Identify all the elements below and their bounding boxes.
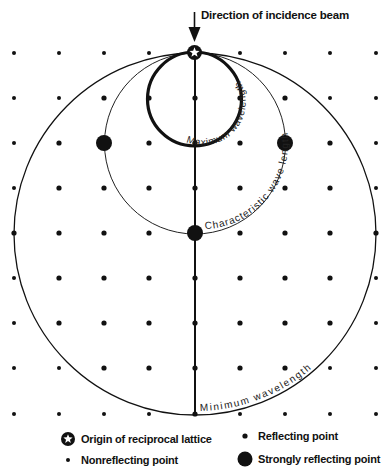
reflecting-point [56,185,61,190]
nonreflecting-point [12,276,16,280]
reflecting-point [282,275,287,280]
nonreflecting-point [374,96,378,100]
reflecting-point [327,320,332,325]
nonreflecting-point [102,51,106,55]
reflecting-point [282,230,287,235]
reflecting-point [101,275,106,280]
reflecting-point [237,365,242,370]
reflecting-point [327,275,332,280]
legend-origin: Origin of reciprocal lattice [61,432,212,446]
legend-nonreflecting: Nonreflecting point [61,453,178,467]
reflecting-point [146,320,151,325]
reflecting-point [282,320,287,325]
nonreflecting-point [328,366,332,370]
nonreflecting-point [374,186,378,190]
nonreflecting-point [147,51,151,55]
nonreflecting-point [238,412,242,416]
reflecting-point [237,320,242,325]
reflecting-point [146,230,151,235]
reflecting-point [282,95,287,100]
nonreflecting-point [374,366,378,370]
reflecting-point [146,365,151,370]
nonreflecting-point [12,96,16,100]
nonreflecting-dot-icon [61,453,75,467]
origin-star-icon [61,432,75,446]
nonreflecting-point [12,186,16,190]
legend-reflecting-label: Reflecting point [258,430,338,442]
nonreflecting-point [12,141,16,145]
nonreflecting-point [12,51,16,55]
reflecting-point [237,230,242,235]
nonreflecting-point [57,96,61,100]
nonreflecting-point [57,412,61,416]
reflecting-point [101,230,106,235]
nonreflecting-point [374,412,378,416]
reflecting-point [101,365,106,370]
reflecting-point [146,140,151,145]
legend-nonreflecting-label: Nonreflecting point [81,454,178,466]
strongly-reflecting-point [187,225,203,241]
reflecting-point [101,95,106,100]
nonreflecting-point [374,141,378,145]
ewald-diagram: Maximum wavelength Characteristic wave l… [0,0,392,476]
minimum-wavelength-label: Minimum wavelength [200,361,314,413]
nonreflecting-point [374,51,378,55]
reflecting-point [146,185,151,190]
reflecting-point [146,275,151,280]
nonreflecting-point [57,51,61,55]
nonreflecting-point [283,412,287,416]
legend-strongly-reflecting-label: Strongly reflecting point [258,453,380,465]
nonreflecting-point [57,366,61,370]
reflecting-point [56,140,61,145]
reflecting-point [282,185,287,190]
nonreflecting-point [102,412,106,416]
reflecting-dot-icon [238,429,252,443]
reflecting-point [56,275,61,280]
strongly-reflecting-point [96,135,112,151]
reflecting-point [282,365,287,370]
reflecting-point [327,185,332,190]
nonreflecting-point [12,321,16,325]
legend-reflecting: Reflecting point [238,429,338,443]
reflecting-point [237,275,242,280]
legend-origin-label: Origin of reciprocal lattice [81,433,212,445]
reflecting-point [237,140,242,145]
reflecting-point [56,230,61,235]
nonreflecting-point [328,412,332,416]
reflecting-point [101,185,106,190]
characteristic-wavelength-label: Characteristic wave length [204,132,290,232]
strongly-reflecting-dot-icon [238,452,252,466]
reflecting-point [101,320,106,325]
nonreflecting-point [328,51,332,55]
nonreflecting-point [374,276,378,280]
nonreflecting-point [147,412,151,416]
reflecting-point [237,185,242,190]
reflecting-point [327,230,332,235]
nonreflecting-point [374,321,378,325]
incidence-beam-arrow-icon [189,12,201,42]
nonreflecting-point [283,51,287,55]
nonreflecting-point [12,366,16,370]
nonreflecting-point [12,412,16,416]
reflecting-point [327,140,332,145]
legend-strongly-reflecting: Strongly reflecting point [238,452,380,466]
nonreflecting-point [238,51,242,55]
nonreflecting-point [328,96,332,100]
reflecting-point [56,320,61,325]
incidence-beam-label: Direction of incidence beam [201,9,349,21]
origin-star-icon [187,45,202,60]
